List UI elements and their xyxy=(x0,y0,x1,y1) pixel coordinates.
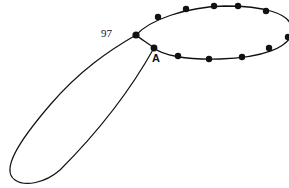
diagram-canvas: 97 A xyxy=(0,0,289,188)
point-a-label: A xyxy=(152,52,160,64)
orbit-dot xyxy=(263,8,269,14)
orbit-dot xyxy=(155,14,161,20)
orbit-dot xyxy=(235,3,241,9)
orbit-dot xyxy=(285,34,289,40)
junction-label: 97 xyxy=(101,27,113,39)
orbit-dot xyxy=(266,45,272,51)
large-loop-path xyxy=(10,35,154,183)
orbit-dot xyxy=(239,54,245,60)
orbit-dot xyxy=(211,3,217,9)
point-a-dot xyxy=(151,45,158,52)
orbit-dot xyxy=(175,53,181,59)
junction-dot xyxy=(132,31,139,38)
orbit-dot xyxy=(206,56,212,62)
orbit-dot xyxy=(183,6,189,12)
